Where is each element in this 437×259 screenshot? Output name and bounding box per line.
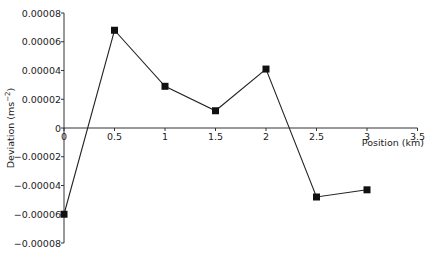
data-point-marker	[364, 186, 371, 193]
y-tick-label: −0.00006	[14, 209, 61, 220]
deviation-chart: 0.000080.000060.000040.000020−0.00002−0.…	[0, 0, 437, 259]
x-tick-label: 2	[263, 131, 269, 142]
x-tick-label: 1.5	[208, 131, 223, 142]
axes	[64, 13, 418, 243]
series-line	[64, 30, 367, 214]
y-tick-label: −0.00008	[14, 238, 61, 249]
x-tick-label: 1	[162, 131, 168, 142]
y-tick-label: 0.00008	[22, 8, 61, 19]
y-tick-label: 0.00004	[22, 65, 61, 76]
data-point-marker	[313, 194, 320, 201]
y-tick-label: 0.00006	[22, 36, 61, 47]
y-label-text: Deviation (ms	[5, 102, 16, 168]
x-axis-label: Position (km)	[362, 137, 424, 148]
y-tick-label: −0.00004	[14, 180, 61, 191]
y-label-superscript: −2	[4, 92, 12, 102]
data-point-marker	[212, 107, 219, 114]
y-tick-label: −0.00002	[14, 151, 61, 162]
x-tick-label: 0	[61, 131, 67, 142]
data-point-marker	[61, 211, 68, 218]
y-axis-label: Deviation (ms−2)	[4, 88, 16, 168]
x-tick-label: 2.5	[309, 131, 324, 142]
y-label-close: )	[5, 88, 16, 92]
y-tick-label: 0.00002	[22, 94, 61, 105]
x-tick-label: 0.5	[107, 131, 122, 142]
data-point-marker	[162, 83, 169, 90]
series	[61, 27, 371, 218]
data-point-marker	[263, 66, 270, 73]
data-point-marker	[111, 27, 118, 34]
